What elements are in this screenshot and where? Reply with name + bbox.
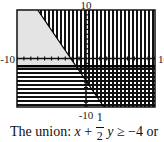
fraction-bar <box>96 127 104 128</box>
caption: The union: x + 12 y ≥ −4 or <box>10 122 158 140</box>
tick-label-right: 10 <box>158 53 164 65</box>
fraction-numerator: 1 <box>97 110 103 125</box>
inequality-graph: 10 -10 -10 10 <box>0 0 164 120</box>
caption-prefix: The union: <box>10 124 75 139</box>
caption-fraction: 12 <box>96 122 104 136</box>
caption-rest: ≥ −4 or <box>113 124 158 139</box>
fraction-denominator: 2 <box>97 129 103 142</box>
tick-label-left: -10 <box>0 53 15 65</box>
tick-label-bottom: -10 <box>79 109 94 120</box>
caption-var-y: y <box>104 124 114 139</box>
y-axis-ticks <box>84 10 88 107</box>
caption-plus: + <box>81 124 96 139</box>
tick-label-top: 10 <box>81 0 93 11</box>
